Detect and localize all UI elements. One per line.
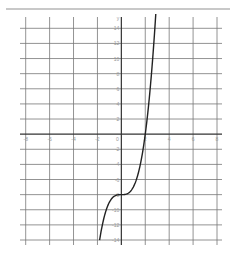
y-tick-label: -10 xyxy=(112,207,119,213)
y-tick-label: 4 xyxy=(117,101,120,107)
y-tick-label: 2 xyxy=(117,116,120,122)
y-tick-label: 8 xyxy=(117,71,120,77)
y-tick-label: -2 xyxy=(115,146,120,152)
y-tick-label: -4 xyxy=(115,161,120,167)
function-curve xyxy=(100,14,156,240)
y-tick-label: -12 xyxy=(112,222,119,228)
y-tick-label: 10 xyxy=(114,56,120,62)
x-tick-label: -2 xyxy=(95,136,100,142)
x-tick-label: 6 xyxy=(192,136,195,142)
y-axis-label: y xyxy=(117,15,120,21)
y-tick-label: 6 xyxy=(117,86,120,92)
y-tick-label: 14 xyxy=(114,25,120,31)
y-tick-label: -14 xyxy=(112,237,119,243)
y-tick-label: 12 xyxy=(114,40,120,46)
function-graph: -8-6-4-2024681412108642-2-4-6-8-10-12-14… xyxy=(0,0,236,253)
x-tick-label: -4 xyxy=(71,136,76,142)
x-tick-label: 0 xyxy=(116,136,119,142)
x-tick-label: -6 xyxy=(47,136,52,142)
x-tick-label: 4 xyxy=(168,136,171,142)
y-tick-label: -6 xyxy=(115,177,120,183)
x-tick-label: -8 xyxy=(23,136,28,142)
x-tick-label: 8 xyxy=(216,136,219,142)
